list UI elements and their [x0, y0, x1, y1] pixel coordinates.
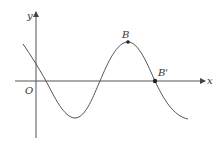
sine-graph-figure: y x O B B': [0, 0, 218, 147]
point-b-marker: [126, 40, 130, 44]
x-axis-label: x: [207, 75, 213, 86]
point-b-prime-marker: [153, 79, 157, 83]
y-axis-label: y: [26, 10, 33, 21]
point-b-prime-label: B': [157, 67, 168, 78]
origin-label: O: [25, 85, 33, 96]
point-b-label: B: [121, 29, 129, 40]
